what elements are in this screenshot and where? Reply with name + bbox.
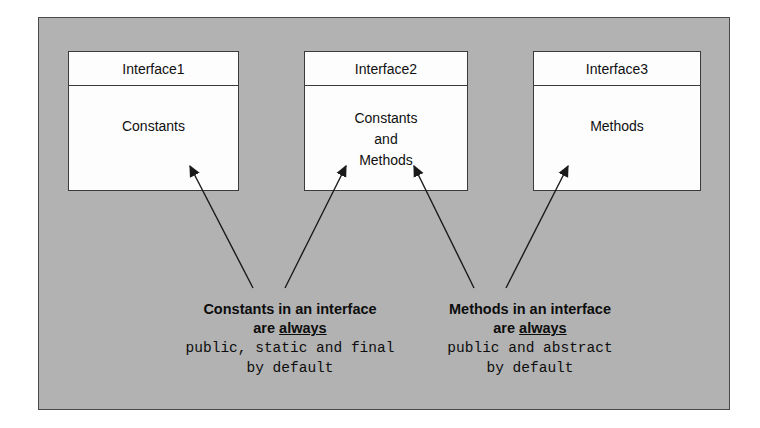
interface-2-member-0: Constants (305, 108, 467, 129)
interface-2-title: Interface2 (305, 52, 467, 86)
annotation-methods-line4: by default (419, 358, 641, 378)
interface-box-1: Interface1 Constants (68, 51, 239, 191)
interface-1-member-0: Constants (69, 116, 238, 137)
interface-2-members: Constants and Methods (305, 86, 467, 171)
annotation-methods-line3: public and abstract (419, 338, 641, 358)
annotation-methods-line2: are always (419, 319, 641, 338)
interface-box-3: Interface3 Methods (533, 51, 701, 191)
interface-1-members: Constants (69, 86, 238, 137)
interface-2-member-2: Methods (305, 150, 467, 171)
annotation-constants-line3: public, static and final (170, 338, 410, 358)
annotation-constants-line1: Constants in an interface (170, 300, 410, 319)
interface-1-title: Interface1 (69, 52, 238, 86)
annotation-methods-line2-prefix: are (493, 320, 519, 336)
interface-3-members: Methods (534, 86, 700, 137)
interface-3-member-0: Methods (534, 116, 700, 137)
annotation-constants-line4: by default (170, 358, 410, 378)
annotation-methods: Methods in an interface are always publi… (419, 300, 641, 378)
annotation-constants-line2-prefix: are (253, 320, 279, 336)
annotation-methods-line1: Methods in an interface (419, 300, 641, 319)
annotation-constants-always: always (279, 320, 327, 336)
interface-2-member-1: and (305, 129, 467, 150)
interface-box-2: Interface2 Constants and Methods (304, 51, 468, 191)
interface-3-title: Interface3 (534, 52, 700, 86)
diagram-canvas: Interface1 Constants Interface2 Constant… (0, 0, 760, 428)
annotation-constants-line2: are always (170, 319, 410, 338)
diagram-panel: Interface1 Constants Interface2 Constant… (38, 17, 730, 410)
annotation-constants: Constants in an interface are always pub… (170, 300, 410, 378)
annotation-methods-always: always (519, 320, 567, 336)
